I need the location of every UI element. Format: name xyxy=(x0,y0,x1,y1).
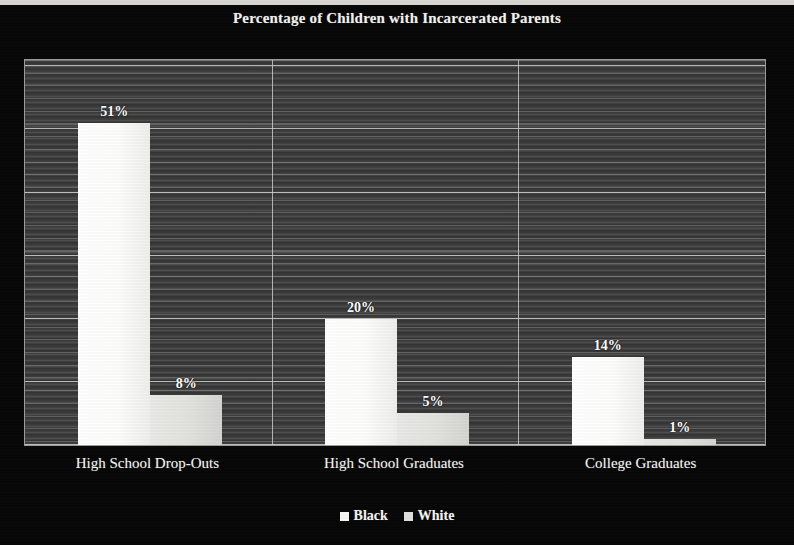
bar-value-label: 1% xyxy=(644,420,716,436)
plot-area: 51%8%20%5%14%1% xyxy=(24,59,766,446)
legend-item-black: Black xyxy=(340,508,388,524)
bar-black-1 xyxy=(78,123,150,445)
bar-black-2 xyxy=(325,319,397,445)
bars-layer: 51%8%20%5%14%1% xyxy=(25,60,765,445)
chart-legend: BlackWhite xyxy=(0,508,794,524)
legend-label: Black xyxy=(354,508,388,524)
category-label-3: College Graduates xyxy=(517,455,764,472)
bar-white-3 xyxy=(644,439,716,445)
bar-value-label: 20% xyxy=(325,300,397,316)
bar-white-1 xyxy=(150,395,222,445)
chart-figure: Percentage of Children with Incarcerated… xyxy=(0,0,794,545)
chart-title: Percentage of Children with Incarcerated… xyxy=(0,10,794,27)
legend-swatch-icon xyxy=(340,512,349,521)
category-label-2: High School Graduates xyxy=(271,455,518,472)
bar-value-label: 8% xyxy=(150,376,222,392)
category-label-1: High School Drop-Outs xyxy=(24,455,271,472)
legend-swatch-icon xyxy=(404,512,413,521)
category-axis-labels: High School Drop-OutsHigh School Graduat… xyxy=(24,455,766,485)
bar-value-label: 14% xyxy=(572,338,644,354)
bar-black-3 xyxy=(572,357,644,445)
legend-label: White xyxy=(418,508,455,524)
legend-item-white: White xyxy=(404,508,455,524)
bar-white-2 xyxy=(397,413,469,445)
bar-value-label: 5% xyxy=(397,394,469,410)
bar-value-label: 51% xyxy=(78,104,150,120)
